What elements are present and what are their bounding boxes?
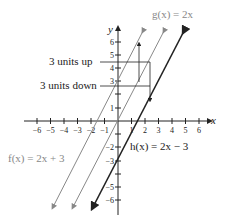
svg-text:−5: −5: [46, 126, 55, 135]
svg-text:2: 2: [143, 126, 147, 135]
svg-text:6: 6: [110, 38, 114, 47]
svg-text:1: 1: [110, 104, 114, 113]
svg-text:−6: −6: [33, 126, 42, 135]
y-axis-label: y: [108, 23, 113, 35]
svg-text:−1: −1: [100, 126, 109, 135]
svg-text:4: 4: [170, 126, 174, 135]
svg-text:4: 4: [110, 64, 114, 73]
svg-text:3: 3: [157, 126, 161, 135]
g-label: g(x) = 2x: [152, 8, 193, 20]
f-label: f(x) = 2x + 3: [8, 152, 64, 164]
up-label: 3 units up: [49, 55, 92, 67]
h-label: h(x) = 2x − 3: [130, 140, 188, 152]
svg-text:−4: −4: [60, 126, 69, 135]
svg-text:3: 3: [110, 77, 114, 86]
down-label: 3 units down: [40, 79, 97, 91]
svg-text:6: 6: [197, 126, 201, 135]
svg-text:−3: −3: [73, 126, 82, 135]
graph-canvas: −6−5−4 −3−2−1 123 456 654 31 −2−3 −5−6: [0, 0, 226, 220]
svg-text:−5: −5: [105, 183, 114, 192]
svg-text:−3: −3: [105, 157, 114, 166]
svg-text:5: 5: [110, 51, 114, 60]
svg-text:5: 5: [184, 126, 188, 135]
x-axis-label: x: [211, 114, 216, 126]
svg-text:−2: −2: [105, 143, 114, 152]
svg-text:−6: −6: [105, 196, 114, 205]
line-h: [93, 31, 184, 207]
